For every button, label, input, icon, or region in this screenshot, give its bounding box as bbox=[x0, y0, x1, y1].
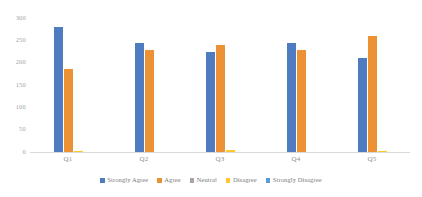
bar bbox=[297, 50, 306, 152]
y-axis: 050100150200250300 bbox=[0, 0, 30, 197]
bar-group bbox=[258, 0, 334, 152]
bar bbox=[216, 45, 225, 152]
y-tick-label: 250 bbox=[0, 37, 26, 44]
bar bbox=[64, 69, 73, 152]
x-tick-label: Q2 bbox=[106, 155, 182, 171]
y-tick-label: 300 bbox=[0, 15, 26, 22]
bar bbox=[287, 43, 296, 152]
bar bbox=[226, 150, 235, 152]
bar-cluster bbox=[182, 0, 258, 152]
bar-cluster bbox=[106, 0, 182, 152]
bar bbox=[358, 58, 367, 152]
bar-cluster bbox=[258, 0, 334, 152]
bar-group bbox=[334, 0, 410, 152]
legend-item[interactable]: Strongly Disagree bbox=[266, 177, 322, 184]
y-tick-label: 50 bbox=[0, 126, 26, 133]
bar bbox=[74, 151, 83, 152]
legend-swatch-icon bbox=[100, 178, 105, 183]
legend-item[interactable]: Strongly Agree bbox=[100, 177, 148, 184]
bar-group bbox=[106, 0, 182, 152]
legend-label: Strongly Agree bbox=[107, 177, 148, 184]
bar bbox=[206, 52, 215, 153]
legend-item[interactable]: Agree bbox=[157, 177, 180, 184]
legend-swatch-icon bbox=[190, 178, 195, 183]
bar-cluster bbox=[30, 0, 106, 152]
x-tick-label: Q5 bbox=[334, 155, 410, 171]
legend-label: Strongly Disagree bbox=[273, 177, 322, 184]
chart-legend: Strongly AgreeAgreeNeutralDisagreeStrong… bbox=[0, 177, 422, 184]
bar-cluster bbox=[334, 0, 410, 152]
y-tick-label: 0 bbox=[0, 149, 26, 156]
bar bbox=[368, 36, 377, 152]
bar-groups bbox=[30, 0, 410, 152]
bar bbox=[378, 151, 387, 152]
bar-group bbox=[30, 0, 106, 152]
y-tick-label: 200 bbox=[0, 59, 26, 66]
legend-item[interactable]: Neutral bbox=[190, 177, 217, 184]
bar-group bbox=[182, 0, 258, 152]
legend-label: Agree bbox=[164, 177, 180, 184]
legend-swatch-icon bbox=[157, 178, 162, 183]
x-tick-label: Q4 bbox=[258, 155, 334, 171]
legend-item[interactable]: Disagree bbox=[226, 177, 257, 184]
bar bbox=[54, 27, 63, 152]
x-tick-label: Q1 bbox=[30, 155, 106, 171]
bar bbox=[135, 43, 144, 152]
legend-swatch-icon bbox=[226, 178, 231, 183]
y-tick-label: 150 bbox=[0, 82, 26, 89]
legend-label: Neutral bbox=[197, 177, 217, 184]
legend-swatch-icon bbox=[266, 178, 271, 183]
x-axis-labels: Q1Q2Q3Q4Q5 bbox=[30, 155, 410, 171]
bar bbox=[145, 50, 154, 152]
legend-label: Disagree bbox=[233, 177, 257, 184]
x-axis-line bbox=[30, 152, 410, 153]
x-tick-label: Q3 bbox=[182, 155, 258, 171]
bar-chart: 050100150200250300 Q1Q2Q3Q4Q5 Strongly A… bbox=[0, 0, 422, 197]
y-tick-label: 100 bbox=[0, 104, 26, 111]
